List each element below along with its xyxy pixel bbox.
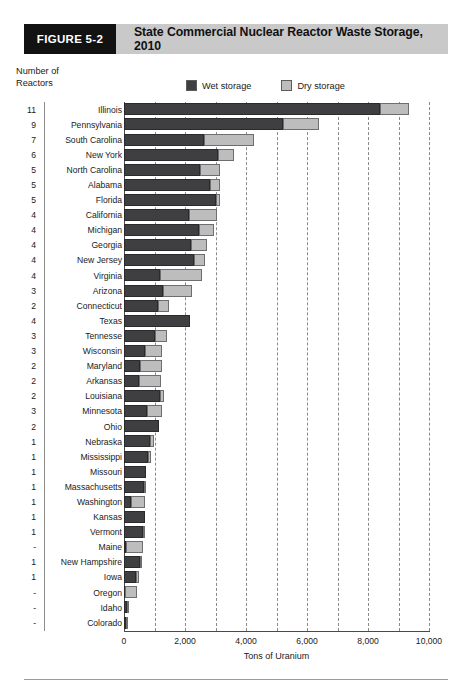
state-label: Iowa [40, 572, 122, 582]
reactor-count: - [0, 603, 36, 613]
bar-row: -Oregon [0, 585, 470, 600]
stacked-bar [124, 617, 429, 629]
bar-segment-wet-storage [124, 571, 136, 583]
stacked-bar [124, 390, 429, 402]
bar-segment-wet-storage [124, 269, 160, 281]
bar-row: 4Georgia [0, 238, 470, 253]
bar-segment-wet-storage [124, 209, 189, 221]
state-label: New York [40, 150, 122, 160]
bar-segment-dry-storage [199, 224, 214, 236]
bar-segment-dry-storage [126, 541, 143, 553]
reactor-count: 4 [0, 316, 36, 326]
legend-item-wet-storage: Wet storage [186, 80, 251, 91]
bar-row: 3Arizona [0, 283, 470, 298]
x-axis-tick-label: 10,000 [416, 636, 442, 646]
reactor-count: 1 [0, 452, 36, 462]
reactor-count: 1 [0, 467, 36, 477]
state-label: Texas [40, 316, 122, 326]
chart-x-axis-line [124, 631, 430, 632]
bar-segment-dry-storage [125, 586, 137, 598]
bar-segment-dry-storage [160, 269, 202, 281]
bar-row: 4California [0, 208, 470, 223]
stacked-bar [124, 511, 429, 523]
bar-segment-dry-storage [148, 451, 151, 463]
bar-rows: 11Illinois9Pennsylvania7South Carolina6N… [0, 102, 470, 630]
state-label: Mississippi [40, 452, 122, 462]
stacked-bar [124, 375, 429, 387]
state-label: Nebraska [40, 437, 122, 447]
bar-segment-dry-storage [200, 164, 221, 176]
figure-number-tag: FIGURE 5-2 [24, 24, 116, 54]
bar-row: 3Tennesse [0, 328, 470, 343]
bar-segment-dry-storage [139, 375, 161, 387]
bar-row: 2Arkansas [0, 374, 470, 389]
bar-segment-wet-storage [124, 526, 143, 538]
bar-row: 4Texas [0, 313, 470, 328]
reactor-count: 1 [0, 527, 36, 537]
reactor-count: 2 [0, 301, 36, 311]
bar-row: 6New York [0, 147, 470, 162]
legend-swatch-dry-storage [281, 80, 292, 91]
bar-segment-dry-storage [140, 360, 163, 372]
x-axis-ticks: 02,0004,0006,0008,00010,000 [124, 636, 429, 650]
stacked-bar [124, 601, 429, 613]
state-label: Illinois [40, 105, 122, 115]
state-label: New Hampshire [40, 557, 122, 567]
bar-segment-wet-storage [124, 224, 199, 236]
yaxis-caption: Number of Reactors [16, 66, 59, 89]
bar-row: 1New Hampshire [0, 555, 470, 570]
reactor-count: 1 [0, 482, 36, 492]
reactor-count: 4 [0, 271, 36, 281]
bar-segment-wet-storage [124, 254, 194, 266]
stacked-bar [124, 254, 429, 266]
bar-row: 1Washington [0, 494, 470, 509]
stacked-bar [124, 481, 429, 493]
bar-segment-dry-storage [163, 285, 192, 297]
x-axis-label: Tons of Uranium [124, 651, 429, 661]
state-label: Tennesse [40, 331, 122, 341]
state-label: Oregon [40, 588, 122, 598]
state-label: Georgia [40, 240, 122, 250]
stacked-bar [124, 556, 429, 568]
bar-segment-dry-storage [131, 496, 145, 508]
bar-segment-wet-storage [124, 345, 145, 357]
bar-segment-dry-storage [155, 330, 168, 342]
reactor-count: 1 [0, 497, 36, 507]
bar-segment-dry-storage [191, 239, 207, 251]
reactor-count: 1 [0, 512, 36, 522]
bar-segment-wet-storage [124, 239, 191, 251]
yaxis-caption-line1: Number of [16, 66, 59, 78]
state-label: Connecticut [40, 301, 122, 311]
x-axis-tick-label: 0 [122, 636, 127, 646]
bar-segment-wet-storage [124, 164, 200, 176]
bar-row: 3Minnesota [0, 404, 470, 419]
bar-row: 1Iowa [0, 570, 470, 585]
state-label: New Jersey [40, 255, 122, 265]
bar-segment-dry-storage [380, 103, 409, 115]
reactor-count: 11 [0, 105, 36, 115]
stacked-bar [124, 118, 429, 130]
reactor-count: 2 [0, 422, 36, 432]
legend-item-dry-storage: Dry storage [281, 80, 345, 91]
chart-legend: Wet storage Dry storage [186, 80, 345, 91]
bar-segment-dry-storage [283, 118, 320, 130]
bar-segment-dry-storage [127, 601, 129, 613]
reactor-count: - [0, 588, 36, 598]
bar-row: 1Kansas [0, 510, 470, 525]
state-label: Colorado [40, 618, 122, 628]
stacked-bar [124, 239, 429, 251]
bar-segment-dry-storage [204, 134, 254, 146]
stacked-bar [124, 571, 429, 583]
bar-row: 2Maryland [0, 359, 470, 374]
state-label: California [40, 210, 122, 220]
bar-segment-wet-storage [124, 420, 159, 432]
state-label: Missouri [40, 467, 122, 477]
bar-segment-wet-storage [124, 300, 158, 312]
reactor-count: 5 [0, 195, 36, 205]
bar-row: 3Wisconsin [0, 344, 470, 359]
state-label: Virginia [40, 271, 122, 281]
x-axis-tick-label: 6,000 [296, 636, 318, 646]
stacked-bar [124, 451, 429, 463]
bar-segment-wet-storage [124, 556, 140, 568]
bar-segment-dry-storage [147, 405, 162, 417]
